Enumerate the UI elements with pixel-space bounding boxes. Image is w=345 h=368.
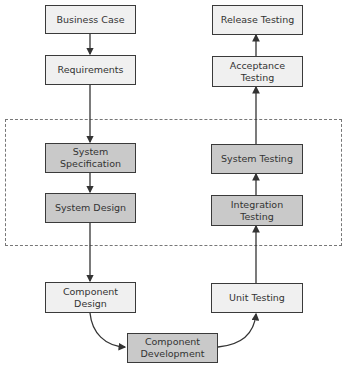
node-label: Integration Testing — [214, 199, 300, 223]
node-component-development: Component Development — [127, 333, 218, 363]
node-unit-testing: Unit Testing — [211, 283, 303, 313]
node-acceptance-testing: Acceptance Testing — [212, 56, 303, 87]
arrow-component-design-to-development — [90, 313, 125, 347]
node-label: System Specification — [48, 146, 133, 170]
node-business-case: Business Case — [45, 5, 136, 34]
arrow-development-to-unit-testing — [218, 314, 256, 347]
v-model-diagram: Business Case Requirements System Specif… — [0, 0, 345, 368]
node-label: System Testing — [221, 153, 293, 165]
node-label: Requirements — [57, 64, 123, 76]
node-component-design: Component Design — [45, 282, 136, 313]
node-release-testing: Release Testing — [212, 5, 303, 35]
node-label: System Design — [55, 202, 126, 214]
node-label: Unit Testing — [229, 292, 285, 304]
node-label: Release Testing — [221, 14, 295, 26]
node-label: Business Case — [56, 14, 124, 26]
node-system-specification: System Specification — [45, 143, 136, 173]
node-label: Component Development — [130, 336, 215, 360]
node-requirements: Requirements — [45, 55, 136, 85]
node-label: Acceptance Testing — [215, 60, 300, 84]
node-system-design: System Design — [45, 193, 136, 223]
node-integration-testing: Integration Testing — [211, 195, 303, 226]
node-label: Component Design — [48, 286, 133, 310]
node-system-testing: System Testing — [211, 144, 303, 174]
